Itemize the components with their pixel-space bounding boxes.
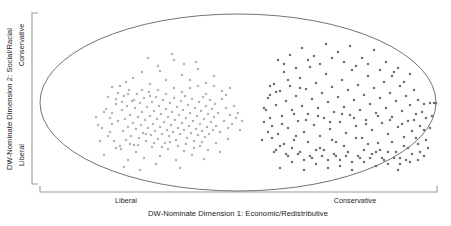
scatter-point (267, 131, 269, 133)
scatter-point (297, 153, 299, 155)
scatter-point (313, 55, 315, 57)
scatter-point (421, 111, 423, 113)
scatter-point (381, 157, 383, 159)
scatter-point (283, 71, 285, 73)
scatter-point (210, 121, 212, 123)
scatter-point (135, 151, 137, 153)
scatter-point (409, 73, 411, 75)
scatter-point (185, 117, 187, 119)
scatter-point (207, 149, 209, 151)
scatter-point (333, 111, 335, 113)
scatter-point (325, 73, 327, 75)
scatter-point (204, 136, 206, 138)
scatter-point (361, 137, 363, 139)
scatter-point (229, 114, 231, 116)
scatter-point (367, 63, 369, 65)
scatter-point (383, 81, 385, 83)
scatter-point (351, 161, 353, 163)
scatter-point (387, 151, 389, 153)
scatter-point (149, 83, 151, 85)
scatter-point (327, 159, 329, 161)
scatter-point (309, 66, 311, 68)
scatter-point (132, 77, 134, 79)
scatter-point (339, 165, 341, 167)
scatter-point (171, 111, 173, 113)
scatter-point (335, 141, 337, 143)
scatter-point (125, 139, 127, 141)
scatter-point (269, 85, 271, 87)
scatter-point (201, 130, 203, 132)
scatter-point (265, 109, 267, 111)
scatter-point (287, 155, 289, 157)
scatter-point (347, 89, 349, 91)
scatter-point (177, 127, 179, 129)
scatter-point (139, 102, 141, 104)
scatter-point (415, 113, 417, 115)
scatter-point (95, 116, 97, 118)
scatter-point (117, 120, 119, 122)
scatter-point (143, 157, 145, 159)
scatter-point (194, 107, 196, 109)
scatter-point (375, 112, 377, 114)
scatter-point (345, 132, 347, 134)
scatter-point (161, 133, 163, 135)
scatter-point (289, 85, 291, 87)
scatter-point (227, 127, 229, 129)
scatter-point (231, 123, 233, 125)
y-axis-title: DW-Nominate Dimension 2: Social/Racial (5, 28, 14, 170)
scatter-point (343, 145, 345, 147)
scatter-point (327, 101, 329, 103)
scatter-point (363, 161, 365, 163)
scatter-point (319, 63, 321, 65)
scatter-point (237, 112, 239, 114)
scatter-point (339, 121, 341, 123)
scatter-point (385, 107, 387, 109)
scatter-point (105, 108, 107, 110)
scatter-point (193, 147, 195, 149)
scatter-point (107, 96, 109, 98)
scatter-point (303, 159, 305, 161)
scatter-point (179, 133, 181, 135)
scatter-point (263, 121, 265, 123)
scatter-point (433, 102, 435, 104)
scatter-point (191, 98, 193, 100)
scatter-point (164, 142, 166, 144)
scatter-point (275, 104, 277, 106)
scatter-point (181, 122, 183, 124)
scatter-point (269, 117, 271, 119)
scatter-point (359, 109, 361, 111)
scatter-point (175, 159, 177, 161)
scatter-point (137, 144, 139, 146)
scatter-point (125, 81, 127, 83)
scatter-point (178, 114, 180, 116)
scatter-point (241, 120, 243, 122)
scatter-point (115, 147, 117, 149)
scatter-point (377, 115, 379, 117)
scatter-point (311, 157, 313, 159)
scatter-point (383, 159, 385, 161)
scatter-point (183, 129, 185, 131)
scatter-point (205, 105, 207, 107)
scatter-point (166, 129, 168, 131)
scatter-point (387, 133, 389, 135)
scatter-point (197, 134, 199, 136)
scatter-point (345, 155, 347, 157)
scatter-point (295, 95, 297, 97)
scatter-point (419, 125, 421, 127)
scatter-point (293, 113, 295, 115)
scatter-point (293, 139, 295, 141)
scatter-point (317, 107, 319, 109)
scatter-point (325, 43, 327, 45)
scatter-point (373, 87, 375, 89)
scatter-point (321, 155, 323, 157)
scatter-point (423, 155, 425, 157)
scatter-point (132, 122, 134, 124)
scatter-points-conservative (261, 43, 437, 171)
scatter-point (283, 63, 285, 65)
scatter-point (141, 111, 143, 113)
scatter-point (198, 101, 200, 103)
scatter-point (142, 132, 144, 134)
scatter-point (395, 151, 397, 153)
scatter-point (399, 85, 401, 87)
scatter-point (128, 89, 130, 91)
